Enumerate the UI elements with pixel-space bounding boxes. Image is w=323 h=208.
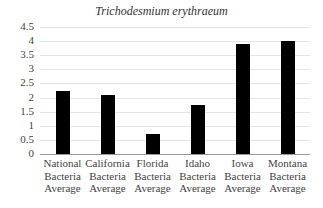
- bar-national: [56, 91, 70, 155]
- bar-montana: [281, 41, 295, 154]
- y-tick-label: 2.5: [0, 77, 34, 88]
- y-tick-label: 0: [0, 148, 34, 159]
- plot-area: [40, 27, 310, 154]
- x-tick-label: IdahoBacteriaAverage: [175, 157, 221, 195]
- x-tick-label-line: California: [85, 157, 131, 170]
- x-tick-label: FloridaBacteriaAverage: [130, 157, 176, 195]
- x-tick-label-line: Bacteria: [40, 170, 86, 183]
- x-tick-label-line: Bacteria: [130, 170, 176, 183]
- x-tick-label-line: Bacteria: [265, 170, 311, 183]
- chart-title: Trichodesmium erythraeum: [0, 4, 323, 19]
- y-tick-label: 2: [0, 92, 34, 103]
- x-tick-label-line: Average: [175, 182, 221, 195]
- gridline: [40, 69, 310, 70]
- x-tick-label-line: Idaho: [175, 157, 221, 170]
- bar-california: [101, 95, 115, 154]
- x-tick-label-line: Iowa: [220, 157, 266, 170]
- gridline: [40, 41, 310, 42]
- y-tick-label: 3.5: [0, 49, 34, 60]
- y-tick-label: 1: [0, 120, 34, 131]
- x-tick-label-line: Bacteria: [175, 170, 221, 183]
- x-tick-label-line: Florida: [130, 157, 176, 170]
- y-tick-label: 0.5: [0, 134, 34, 145]
- x-tick-label-line: Average: [220, 182, 266, 195]
- x-tick-label-line: Average: [265, 182, 311, 195]
- x-tick-label-line: Bacteria: [85, 170, 131, 183]
- x-tick-label-line: Bacteria: [220, 170, 266, 183]
- y-tick-label: 4.5: [0, 21, 34, 32]
- gridline: [40, 55, 310, 56]
- y-tick-label: 3: [0, 63, 34, 74]
- bar-iowa: [236, 44, 250, 154]
- y-tick-label: 1.5: [0, 106, 34, 117]
- gridline: [40, 112, 310, 113]
- bar-idaho: [191, 105, 205, 154]
- x-tick-label: CaliforniaBacteriaAverage: [85, 157, 131, 195]
- gridline: [40, 98, 310, 99]
- x-tick-label-line: Average: [130, 182, 176, 195]
- x-tick-label-line: Average: [40, 182, 86, 195]
- x-tick-label: MontanaBacteriaAverage: [265, 157, 311, 195]
- x-tick-label-line: Average: [85, 182, 131, 195]
- x-tick-label-line: National: [40, 157, 86, 170]
- gridline: [40, 140, 310, 141]
- x-tick-label-line: Montana: [265, 157, 311, 170]
- bar-florida: [146, 134, 160, 154]
- gridline: [40, 126, 310, 127]
- x-tick-label: NationalBacteriaAverage: [40, 157, 86, 195]
- gridline: [40, 27, 310, 28]
- x-tick-label: IowaBacteriaAverage: [220, 157, 266, 195]
- y-tick-label: 4: [0, 35, 34, 46]
- x-axis-line: [40, 154, 310, 155]
- gridline: [40, 83, 310, 84]
